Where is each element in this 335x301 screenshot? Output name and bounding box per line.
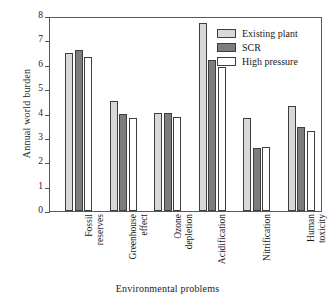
legend-swatch	[217, 43, 236, 52]
bar-group	[110, 18, 137, 211]
legend-swatch	[217, 29, 236, 38]
x-axis-title: Environmental problems	[0, 283, 335, 294]
legend-label: SCR	[242, 42, 261, 53]
bar[interactable]	[84, 57, 92, 211]
category-label-line-1: Human	[306, 214, 316, 242]
bar[interactable]	[288, 106, 296, 211]
y-axis-tick-mark	[45, 188, 50, 189]
bar[interactable]	[208, 60, 216, 211]
category-label-line-2: toxicity	[317, 214, 328, 243]
y-axis-tick-mark	[45, 41, 50, 42]
y-axis-tick-mark	[45, 66, 50, 67]
bar[interactable]	[75, 50, 83, 211]
category-label-line-2: effect	[139, 214, 150, 259]
bar[interactable]	[262, 147, 270, 211]
category-label-line-1: Ozone	[173, 214, 183, 239]
bar[interactable]	[297, 127, 305, 211]
y-axis-tick-label: 2	[38, 157, 43, 167]
x-axis-category-label: Nitrification	[262, 214, 273, 261]
x-axis-category-label: Fossilreserves	[84, 214, 106, 245]
category-label-line-2: depletion	[184, 214, 195, 249]
y-axis-tick-mark	[45, 163, 50, 164]
chart-figure: Annual world burden 012345678 Fossilrese…	[0, 0, 335, 301]
legend-label: High pressure	[242, 56, 298, 67]
bar-group	[65, 18, 92, 211]
bar[interactable]	[65, 53, 73, 211]
x-axis-category-label: Acidification	[217, 214, 228, 264]
bar[interactable]	[218, 67, 226, 211]
y-axis-tick-mark	[45, 17, 50, 18]
y-axis-tick-label: 3	[38, 133, 43, 143]
y-axis-tick-label: 5	[38, 84, 43, 94]
y-axis-tick-mark	[45, 90, 50, 91]
legend-item[interactable]: SCR	[217, 41, 329, 54]
y-axis-tick-mark	[45, 212, 50, 213]
y-axis-tick-mark	[45, 115, 50, 116]
y-axis-title: Annual world burden	[21, 34, 32, 194]
y-axis-tick-label: 4	[38, 109, 43, 119]
legend-item[interactable]: High pressure	[217, 55, 329, 68]
bar[interactable]	[243, 118, 251, 211]
bar-group	[154, 18, 181, 211]
bar[interactable]	[307, 131, 315, 211]
x-axis-category-label: Ozonedepletion	[173, 214, 195, 249]
category-label-line-1: Fossil	[84, 214, 94, 237]
bar[interactable]	[253, 148, 261, 211]
legend-label: Existing plant	[242, 28, 298, 39]
chart-legend: Existing plantSCRHigh pressure	[217, 27, 329, 69]
category-label-line-1: Acidification	[217, 214, 227, 264]
y-axis-tick-label: 1	[38, 182, 43, 192]
bar[interactable]	[173, 117, 181, 211]
category-label-line-2: reserves	[95, 214, 106, 245]
bar[interactable]	[154, 113, 162, 211]
bar[interactable]	[110, 101, 118, 211]
y-axis-tick-label: 0	[38, 206, 43, 216]
x-axis-category-label: Greenhouseeffect	[128, 214, 150, 259]
bar[interactable]	[119, 114, 127, 212]
legend-item[interactable]: Existing plant	[217, 27, 329, 40]
bar[interactable]	[129, 118, 137, 211]
category-label-line-1: Nitrification	[262, 214, 272, 261]
category-label-line-1: Greenhouse	[128, 214, 138, 259]
bar[interactable]	[199, 23, 207, 211]
y-axis-tick-label: 6	[38, 60, 43, 70]
bar[interactable]	[164, 113, 172, 211]
y-axis-tick-label: 7	[38, 35, 43, 45]
y-axis-tick-label: 8	[38, 11, 43, 21]
legend-swatch	[217, 57, 236, 66]
y-axis-tick-mark	[45, 139, 50, 140]
x-axis-category-label: Humantoxicity	[306, 214, 328, 243]
